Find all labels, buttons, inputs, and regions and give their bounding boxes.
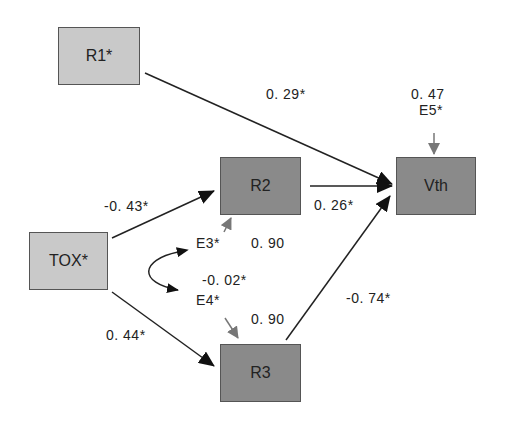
node-r1-label: R1*: [86, 47, 113, 65]
cov-e3-e4: -0. 02*: [202, 272, 247, 288]
coef-r2-vth: 0. 26*: [314, 197, 354, 213]
node-r3: R3: [220, 344, 301, 402]
arrow-e4-to-r3: [225, 318, 238, 338]
arrow-r3-to-vth: [286, 196, 390, 340]
error-e3-value: 0. 90: [251, 235, 285, 251]
error-e4-label: E4*: [196, 292, 220, 308]
error-e5-value: 0. 47: [411, 86, 445, 102]
node-r1: R1*: [58, 27, 140, 85]
node-vth: Vth: [396, 157, 476, 215]
coef-r3-vth: -0. 74*: [346, 290, 391, 306]
node-vth-label: Vth: [424, 177, 448, 195]
arrow-e3-to-r2: [224, 218, 231, 232]
error-e5-label: E5*: [419, 102, 443, 118]
node-r2-label: R2: [250, 177, 270, 195]
error-e4-value: 0. 90: [251, 311, 285, 327]
node-r3-label: R3: [250, 364, 270, 382]
error-e3-label: E3*: [196, 235, 220, 251]
coef-tox-r3: 0. 44*: [106, 327, 146, 343]
node-tox-label: TOX*: [49, 252, 88, 270]
coef-r1-vth: 0. 29*: [266, 86, 306, 102]
node-r2: R2: [220, 157, 301, 215]
coef-tox-r2: -0. 43*: [104, 198, 149, 214]
node-tox: TOX*: [29, 232, 108, 290]
covariance-arc-e3-e4: [149, 252, 178, 290]
